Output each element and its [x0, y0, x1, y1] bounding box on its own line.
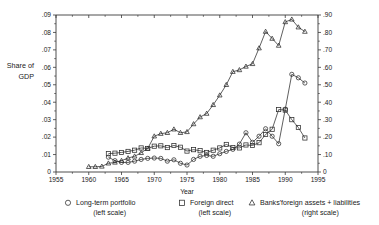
y-axis-left-tick-label: .03 — [42, 116, 51, 123]
legend-square-icon — [179, 200, 184, 205]
y-axis-right-ticks — [318, 15, 321, 172]
y-axis-right-tick-label: .10 — [323, 151, 332, 158]
data-point-marker — [303, 136, 307, 140]
data-series-layer — [86, 17, 307, 169]
legend-item-2[interactable]: Foreign direct(left scale) — [179, 199, 233, 217]
data-point-marker — [303, 81, 307, 85]
y-axis-title-line2: GDP — [18, 72, 34, 81]
series-line — [89, 19, 305, 166]
y-axis-right-tick-label: .80 — [323, 29, 332, 36]
x-axis-tick-label: 1970 — [147, 176, 162, 183]
legend-item-1[interactable]: Long-term portfolio(left scale) — [65, 199, 135, 217]
plot-frame — [56, 15, 318, 172]
legend-label: Foreign direct — [190, 199, 233, 207]
x-axis-tick-label: 1960 — [81, 176, 96, 183]
y-axis-left-tick-label: 0 — [47, 168, 51, 175]
legend-circle-icon — [65, 200, 70, 205]
y-axis-left-tick-label: .07 — [42, 46, 51, 53]
y-axis-right-tick-label: .70 — [323, 46, 332, 53]
y-axis-right-tick-label: .50 — [323, 81, 332, 88]
legend-item-3[interactable]: Banks'foreign assets + liabilities(right… — [249, 199, 360, 217]
legend-label: Long-term portfolio — [76, 199, 136, 207]
legend-sublabel: (left scale) — [93, 209, 126, 217]
y-axis-right-tick-label: .40 — [323, 99, 332, 106]
y-axis-left-tick-label: .09 — [42, 11, 51, 18]
data-series-3 — [86, 17, 307, 169]
x-axis-title: Year — [180, 188, 194, 195]
x-axis-tick-label: 1975 — [180, 176, 195, 183]
y-axis-left-tick-label: .06 — [42, 64, 51, 71]
legend-triangle-icon — [249, 200, 255, 205]
legend-sublabel: (right scale) — [302, 209, 339, 217]
chart-plot-area: 0.01.02.03.04.05.06.07.08.090.10.20.30.4… — [0, 0, 379, 225]
x-axis-tick-label: 1995 — [311, 176, 326, 183]
y-axis-left-tick-label: .02 — [42, 133, 51, 140]
y-axis-title-line1: Share of — [7, 61, 34, 70]
x-axis-tick-label: 1965 — [114, 176, 129, 183]
y-axis-left-tick-label: .04 — [42, 99, 51, 106]
data-series-2 — [106, 107, 307, 155]
legend-sublabel: (left scale) — [198, 209, 231, 217]
y-axis-left-tick-label: .08 — [42, 29, 51, 36]
series-line — [108, 110, 305, 154]
x-axis-tick-label: 1990 — [278, 176, 293, 183]
y-axis-right-tick-label: .60 — [323, 64, 332, 71]
y-axis-right-tick-label: .30 — [323, 116, 332, 123]
y-axis-right-tick-label: 0 — [323, 168, 327, 175]
legend-label: Banks'foreign assets + liabilities — [260, 199, 361, 207]
data-series-1 — [106, 72, 307, 167]
chart-figure: 0.01.02.03.04.05.06.07.08.090.10.20.30.4… — [0, 0, 379, 225]
x-axis-tick-label: 1955 — [49, 176, 64, 183]
x-axis-tick-label: 1985 — [245, 176, 260, 183]
x-axis-tick-label: 1980 — [212, 176, 227, 183]
y-axis-left-tick-label: .01 — [42, 151, 51, 158]
y-axis-left-tick-label: .05 — [42, 81, 51, 88]
y-axis-right-tick-label: .90 — [323, 11, 332, 18]
chart-legend: Long-term portfolio(left scale)Foreign d… — [65, 199, 360, 217]
y-axis-right-tick-label: .20 — [323, 133, 332, 140]
